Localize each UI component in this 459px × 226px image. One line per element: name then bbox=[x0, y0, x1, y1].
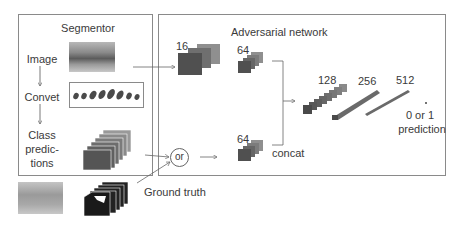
class-predictions-stack-icon bbox=[83, 130, 131, 170]
diagram-graphics bbox=[0, 0, 459, 226]
flow-arrows bbox=[133, 61, 295, 183]
output-node-icon bbox=[425, 102, 427, 104]
feature-map-64-bottom-icon bbox=[238, 140, 263, 161]
feature-map-16-icon bbox=[178, 44, 220, 75]
ground-truth-stack-icon bbox=[84, 182, 128, 216]
feature-map-128-icon bbox=[303, 84, 347, 114]
feature-map-64-top-icon bbox=[238, 52, 263, 73]
convnet-layers-icon bbox=[72, 88, 140, 101]
